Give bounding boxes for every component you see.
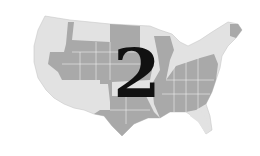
region-maine — [230, 24, 242, 38]
map-numeral: 2 — [112, 40, 162, 106]
us-map: 2 — [0, 0, 260, 156]
